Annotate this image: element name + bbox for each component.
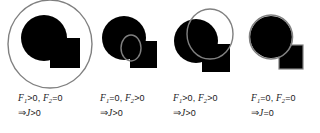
panel-2: F1=0, F2>0 ⇒J>0 <box>94 0 174 133</box>
f2-relation: >0 <box>134 93 144 103</box>
f1-relation: >0, <box>182 93 195 103</box>
j-relation: >0 <box>30 108 40 118</box>
panel-3-artwork <box>166 0 250 92</box>
panel-3-svg <box>166 0 250 92</box>
circle-shape <box>21 15 67 61</box>
j-relation: >0 <box>185 108 195 118</box>
j-relation: =0 <box>263 108 273 118</box>
panel-4-svg <box>243 0 320 92</box>
implies-arrow-icon: ⇒ <box>18 107 26 118</box>
panel-4: F1=0, F2=0 ⇒J=0 <box>243 0 320 133</box>
panel-1-svg <box>2 0 98 92</box>
f1-relation: =0, <box>109 93 122 103</box>
j-relation: >0 <box>112 108 122 118</box>
circle-shape <box>174 19 218 63</box>
panel-3: F1>0, F2>0 ⇒J>0 <box>166 0 250 133</box>
panel-2-artwork <box>94 0 174 92</box>
panel-4-caption: F1=0, F2=0 ⇒J=0 <box>243 93 320 119</box>
f2-relation: =0 <box>285 93 295 103</box>
panel-4-caption-line-2: ⇒J=0 <box>251 107 320 120</box>
figure-canvas: F1>0, F2=0 ⇒J>0 F1=0, F2>0 ⇒J>0 F1 <box>0 0 320 133</box>
implies-arrow-icon: ⇒ <box>173 107 181 118</box>
f1-relation: =0, <box>260 93 273 103</box>
panel-4-caption-line-1: F1=0, F2=0 <box>251 93 320 107</box>
implies-arrow-icon: ⇒ <box>100 107 108 118</box>
panel-1: F1>0, F2=0 ⇒J>0 <box>2 0 98 133</box>
circle-shape <box>250 16 292 58</box>
panel-2-svg <box>94 0 174 92</box>
f2-relation: =0 <box>52 93 62 103</box>
f2-relation: >0 <box>207 93 217 103</box>
implies-arrow-icon: ⇒ <box>251 107 259 118</box>
f1-relation: >0, <box>27 93 40 103</box>
panel-4-artwork <box>243 0 320 92</box>
panel-1-artwork <box>2 0 98 92</box>
